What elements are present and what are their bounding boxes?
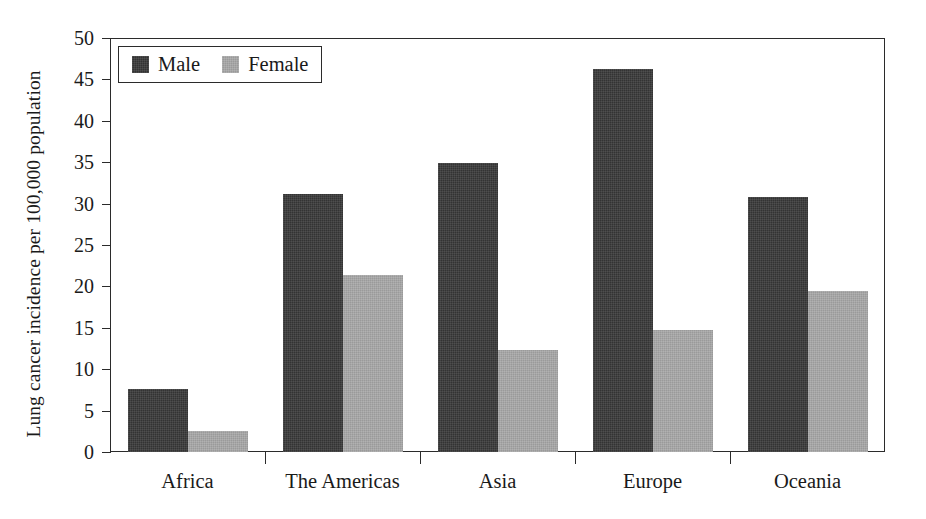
legend-label-female: Female	[248, 54, 308, 75]
legend-item-male: Male	[132, 54, 200, 75]
y-axis-title: Lung cancer incidence per 100,000 popula…	[23, 24, 45, 484]
y-axis-tick-label-text: 45	[52, 69, 94, 89]
x-axis-label-asia: Asia	[420, 470, 575, 493]
legend-item-female: Female	[222, 54, 308, 75]
bar-africa-female	[188, 431, 248, 452]
lung-cancer-incidence-bar-chart: Lung cancer incidence per 100,000 popula…	[0, 0, 926, 519]
y-axis-tick-label-text: 15	[52, 318, 94, 338]
bar-oceania-male	[748, 197, 808, 452]
legend-swatch-female-icon	[222, 56, 239, 73]
x-axis-label-africa: Africa	[110, 470, 265, 493]
y-axis-tick-label-text: 25	[52, 235, 94, 255]
x-axis-label-the-americas: The Americas	[265, 470, 420, 493]
x-axis-label-oceania: Oceania	[730, 470, 885, 493]
y-axis-tick-label-text: 50	[52, 28, 94, 48]
x-axis-tick	[265, 452, 266, 464]
bar-europe-female	[653, 330, 713, 452]
y-axis-tick	[102, 452, 111, 453]
bar-the-americas-male	[283, 194, 343, 452]
y-axis-tick-label-text: 0	[52, 442, 94, 462]
y-axis-tick-label-text: 40	[52, 111, 94, 131]
bar-europe-male	[593, 69, 653, 452]
bar-oceania-female	[808, 291, 868, 452]
legend-label-male: Male	[158, 54, 200, 75]
y-axis-tick-label-text: 20	[52, 276, 94, 296]
bar-africa-male	[128, 389, 188, 452]
y-axis-tick-label-text: 10	[52, 359, 94, 379]
y-axis-tick-label-text: 35	[52, 152, 94, 172]
bar-asia-female	[498, 350, 558, 452]
y-axis-tick-label-text: 5	[52, 401, 94, 421]
x-axis-label-europe: Europe	[575, 470, 730, 493]
bars-layer	[110, 38, 885, 452]
y-axis-tick-label-text: 30	[52, 194, 94, 214]
x-axis-tick	[420, 452, 421, 464]
x-axis-tick	[575, 452, 576, 464]
x-axis-tick	[730, 452, 731, 464]
legend-swatch-male-icon	[132, 56, 149, 73]
bar-the-americas-female	[343, 275, 403, 452]
bar-asia-male	[438, 163, 498, 452]
chart-legend: Male Female	[118, 46, 322, 83]
